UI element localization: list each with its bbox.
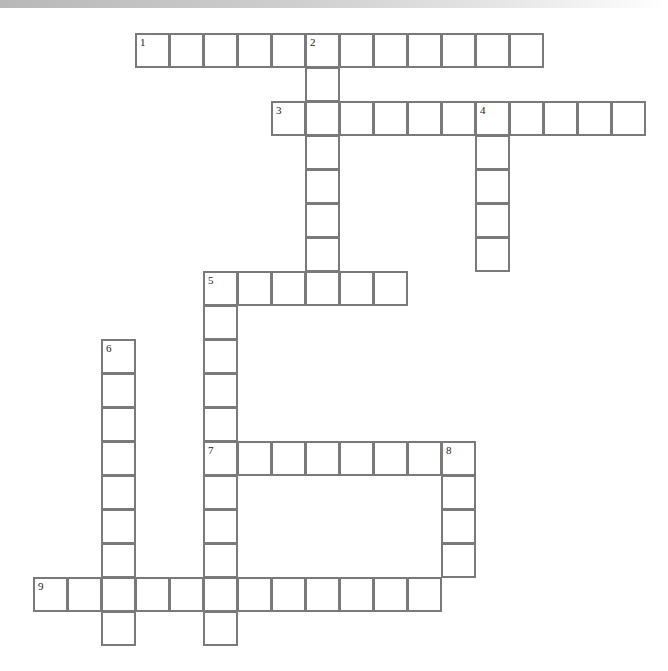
crossword-cell[interactable] — [237, 271, 272, 306]
crossword-cell[interactable] — [271, 577, 306, 612]
crossword-cell[interactable] — [339, 33, 374, 68]
crossword-cell[interactable] — [475, 33, 510, 68]
clue-number: 2 — [310, 36, 316, 48]
crossword-cell[interactable] — [441, 543, 476, 578]
crossword-cell[interactable] — [203, 577, 238, 612]
crossword-cell[interactable] — [305, 577, 340, 612]
clue-number: 5 — [208, 274, 214, 286]
crossword-cell[interactable] — [305, 237, 340, 272]
crossword-cell[interactable] — [339, 577, 374, 612]
crossword-cell[interactable] — [203, 339, 238, 374]
crossword-cell[interactable] — [407, 101, 442, 136]
crossword-cell[interactable] — [611, 101, 646, 136]
crossword-cell[interactable] — [101, 611, 136, 646]
crossword-cell[interactable] — [441, 509, 476, 544]
crossword-cell[interactable] — [67, 577, 102, 612]
crossword-cell[interactable]: 7 — [203, 441, 238, 476]
crossword-cell[interactable] — [407, 577, 442, 612]
crossword-cell[interactable] — [407, 33, 442, 68]
crossword-cell[interactable] — [271, 33, 306, 68]
crossword-cell[interactable] — [339, 101, 374, 136]
crossword-cell[interactable]: 9 — [33, 577, 68, 612]
crossword-cell[interactable]: 3 — [271, 101, 306, 136]
crossword-cell[interactable] — [237, 441, 272, 476]
clue-number: 4 — [480, 104, 486, 116]
clue-number: 6 — [106, 342, 112, 354]
crossword-cell[interactable] — [135, 577, 170, 612]
crossword-cell[interactable] — [203, 611, 238, 646]
crossword-cell[interactable] — [305, 441, 340, 476]
crossword-cell[interactable] — [203, 373, 238, 408]
clue-number: 9 — [38, 580, 44, 592]
crossword-cell[interactable] — [305, 203, 340, 238]
crossword-cell[interactable] — [271, 271, 306, 306]
crossword-cell[interactable] — [441, 101, 476, 136]
crossword-cell[interactable] — [169, 577, 204, 612]
crossword-cell[interactable] — [475, 203, 510, 238]
crossword-cell[interactable] — [101, 577, 136, 612]
crossword-cell[interactable] — [373, 441, 408, 476]
crossword-cell[interactable] — [305, 169, 340, 204]
crossword-cell[interactable] — [237, 33, 272, 68]
crossword-cell[interactable] — [203, 475, 238, 510]
crossword-cell[interactable] — [475, 135, 510, 170]
crossword-cell[interactable]: 2 — [305, 33, 340, 68]
crossword-cell[interactable] — [475, 169, 510, 204]
crossword-cell[interactable] — [441, 33, 476, 68]
crossword-cell[interactable] — [339, 271, 374, 306]
crossword-cell[interactable] — [305, 67, 340, 102]
crossword-cell[interactable] — [441, 475, 476, 510]
crossword-cell[interactable] — [101, 475, 136, 510]
crossword-cell[interactable] — [203, 543, 238, 578]
crossword-cell[interactable] — [509, 101, 544, 136]
crossword-cell[interactable] — [203, 509, 238, 544]
clue-number: 1 — [140, 36, 146, 48]
crossword-cell[interactable] — [101, 441, 136, 476]
crossword-cell[interactable] — [475, 237, 510, 272]
crossword-cell[interactable] — [305, 271, 340, 306]
crossword-cell[interactable]: 4 — [475, 101, 510, 136]
crossword-cell[interactable] — [169, 33, 204, 68]
crossword-cell[interactable] — [203, 33, 238, 68]
crossword-cell[interactable]: 6 — [101, 339, 136, 374]
crossword-cell[interactable] — [373, 101, 408, 136]
clue-number: 3 — [276, 104, 282, 116]
crossword-cell[interactable] — [203, 407, 238, 442]
crossword-grid: 123457689 — [0, 0, 668, 671]
crossword-cell[interactable] — [271, 441, 306, 476]
clue-number: 8 — [446, 444, 452, 456]
crossword-cell[interactable] — [101, 373, 136, 408]
crossword-cell[interactable] — [101, 407, 136, 442]
clue-number: 7 — [208, 444, 214, 456]
crossword-cell[interactable] — [237, 577, 272, 612]
crossword-cell[interactable] — [305, 135, 340, 170]
crossword-cell[interactable] — [509, 33, 544, 68]
crossword-cell[interactable]: 8 — [441, 441, 476, 476]
crossword-cell[interactable] — [305, 101, 340, 136]
crossword-cell[interactable]: 5 — [203, 271, 238, 306]
crossword-cell[interactable] — [101, 509, 136, 544]
crossword-cell[interactable] — [203, 305, 238, 340]
crossword-cell[interactable] — [373, 33, 408, 68]
crossword-cell[interactable] — [407, 441, 442, 476]
crossword-cell[interactable] — [373, 271, 408, 306]
crossword-cell[interactable] — [577, 101, 612, 136]
crossword-cell[interactable] — [339, 441, 374, 476]
crossword-cell[interactable] — [543, 101, 578, 136]
crossword-cell[interactable] — [101, 543, 136, 578]
crossword-cell[interactable]: 1 — [135, 33, 170, 68]
crossword-cell[interactable] — [373, 577, 408, 612]
